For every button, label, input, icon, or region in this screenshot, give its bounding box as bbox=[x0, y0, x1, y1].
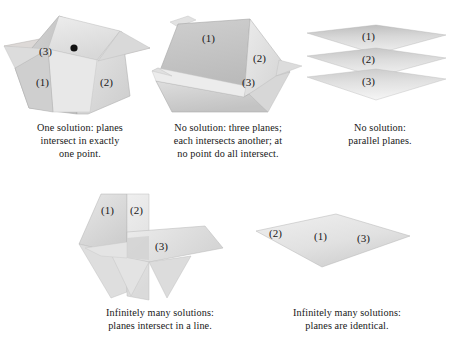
caption-line: No solution: three planes; bbox=[144, 121, 312, 134]
plane-label-3: (3) bbox=[242, 76, 255, 89]
intersection-point-marker bbox=[70, 44, 77, 51]
caption-line: No solution: bbox=[316, 121, 444, 134]
planes-point-diagram: (3) (1) (2) bbox=[2, 2, 152, 120]
plane-label-2: (2) bbox=[130, 204, 143, 217]
caption-no-solution-prism: No solution: three planes; each intersec… bbox=[144, 121, 312, 161]
caption-line: intersect in exactly bbox=[10, 134, 150, 147]
figure-infinite-solutions-identical: (2) (1) (3) bbox=[250, 205, 415, 295]
figure-no-solution-prism: (1) (2) (3) bbox=[150, 2, 305, 120]
figure-no-solution-parallel: (1) (2) (3) bbox=[305, 8, 448, 118]
figure-infinite-solutions-line: (1) (2) (3) bbox=[75, 192, 225, 302]
plane-label-1: (1) bbox=[314, 230, 327, 243]
caption-line: no point do all intersect. bbox=[144, 147, 312, 160]
caption-line: Infinitely many solutions: bbox=[60, 306, 260, 319]
plane-label-1: (1) bbox=[362, 30, 375, 43]
plane-label-2: (2) bbox=[253, 52, 266, 65]
plane-label-1: (1) bbox=[36, 76, 49, 89]
planes-prism-diagram: (1) (2) (3) bbox=[150, 2, 305, 120]
caption-line: parallel planes. bbox=[316, 134, 444, 147]
plane-overlap-shade bbox=[127, 236, 149, 260]
plane-label-3: (3) bbox=[357, 232, 370, 245]
planes-line-diagram: (1) (2) (3) bbox=[75, 192, 225, 302]
plane-label-2: (2) bbox=[100, 76, 113, 89]
caption-line: planes intersect in a line. bbox=[60, 319, 260, 332]
caption-one-solution-point: One solution: planes intersect in exactl… bbox=[10, 121, 150, 161]
plane-3-front-tail bbox=[149, 256, 191, 298]
caption-line: One solution: planes bbox=[10, 121, 150, 134]
caption-line: each intersects another; at bbox=[144, 134, 312, 147]
planes-parallel-diagram: (1) (2) (3) bbox=[305, 8, 448, 118]
plane-label-3: (3) bbox=[39, 45, 52, 58]
plane-label-2: (2) bbox=[269, 227, 282, 240]
plane-label-3: (3) bbox=[362, 75, 375, 88]
plane-label-3: (3) bbox=[155, 240, 168, 253]
caption-line: Infinitely many solutions: bbox=[252, 306, 442, 319]
planes-identical-diagram: (2) (1) (3) bbox=[250, 205, 415, 295]
caption-line: one point. bbox=[10, 147, 150, 160]
plane-lower-facet bbox=[48, 49, 97, 112]
caption-line: planes are identical. bbox=[252, 319, 442, 332]
plane-label-1: (1) bbox=[101, 204, 114, 217]
caption-infinite-solutions-identical: Infinitely many solutions: planes are id… bbox=[252, 306, 442, 332]
caption-infinite-solutions-line: Infinitely many solutions: planes inters… bbox=[60, 306, 260, 332]
plane-3-surface bbox=[307, 69, 446, 100]
plane-identical-surface bbox=[256, 214, 410, 267]
plane-label-2: (2) bbox=[362, 53, 375, 66]
plane-label-1: (1) bbox=[202, 32, 215, 45]
caption-no-solution-parallel: No solution: parallel planes. bbox=[316, 121, 444, 147]
figure-one-solution-point: (3) (1) (2) bbox=[2, 2, 152, 120]
